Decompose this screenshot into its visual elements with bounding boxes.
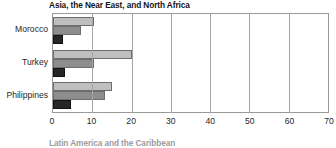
bar-morocco-series-1 <box>53 17 94 26</box>
bar-philippines-series-3 <box>53 100 71 109</box>
bar-philippines-series-2 <box>53 91 105 100</box>
bar-philippines-series-1 <box>53 82 112 91</box>
xtick-20: 20 <box>126 116 136 126</box>
bar-group-philippines <box>53 79 328 112</box>
gridline-50 <box>249 14 250 112</box>
category-label-turkey: Turkey <box>0 57 48 67</box>
gridline-30 <box>171 14 172 112</box>
xtick-0: 0 <box>50 116 55 126</box>
category-label-philippines: Philippines <box>0 90 48 100</box>
xtick-10: 10 <box>87 116 97 126</box>
xtick-50: 50 <box>245 116 255 126</box>
bar-morocco-series-2 <box>53 26 81 35</box>
bar-turkey-series-3 <box>53 68 65 77</box>
gridline-60 <box>289 14 290 112</box>
gridline-40 <box>210 14 211 112</box>
plot-area <box>52 13 329 113</box>
category-axis-labels: Morocco Turkey Philippines <box>0 13 49 113</box>
x-axis: 0 10 20 30 40 50 60 70 <box>52 114 329 130</box>
bar-morocco-series-3 <box>53 35 63 44</box>
xtick-60: 60 <box>285 116 295 126</box>
gridline-20 <box>132 14 133 112</box>
next-chart-title: Latin America and the Caribbean <box>49 138 175 148</box>
category-label-morocco: Morocco <box>0 24 48 34</box>
bar-group-turkey <box>53 47 328 80</box>
bar-group-morocco <box>53 14 328 47</box>
xtick-40: 40 <box>206 116 216 126</box>
chart-title: Asia, the Near East, and North Africa <box>49 0 190 10</box>
chart-figure: Asia, the Near East, and North Africa Mo… <box>0 0 336 148</box>
xtick-30: 30 <box>166 116 176 126</box>
xtick-70: 70 <box>324 116 334 126</box>
gridline-10 <box>92 14 93 112</box>
bar-turkey-series-2 <box>53 59 94 68</box>
